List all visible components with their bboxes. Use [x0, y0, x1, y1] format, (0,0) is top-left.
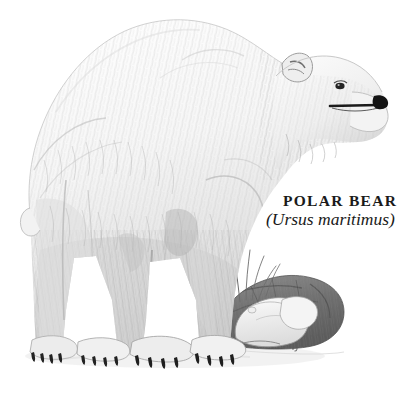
scientific-name-label: (Ursus maritimus): [266, 209, 395, 230]
common-name-label: POLAR BEAR: [283, 192, 397, 210]
illustration-plate: POLAR BEAR (Ursus maritimus): [0, 0, 420, 397]
